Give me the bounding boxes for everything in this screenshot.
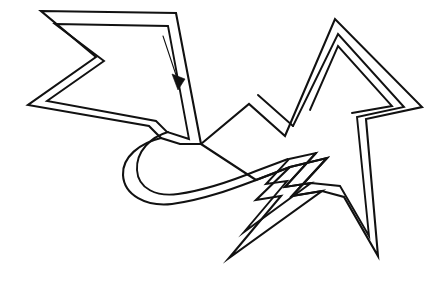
artwork-canvas: A continuous double-outlined ribbon form…: [0, 0, 443, 289]
zigzag-arrow-ribbon-drawing: [0, 0, 443, 289]
